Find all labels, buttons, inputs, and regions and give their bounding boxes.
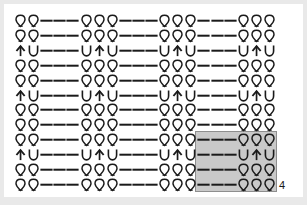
twisted-knit-stitch-icon (80, 132, 93, 147)
purl-stitch-icon (40, 73, 53, 88)
purl-stitch-icon (197, 73, 210, 88)
twisted-knit-stitch-icon (263, 58, 276, 73)
twisted-knit-stitch-icon (14, 162, 27, 177)
twisted-knit-stitch-icon (184, 102, 197, 117)
purl-stitch-icon (145, 43, 158, 58)
knit-below-stitch-icon (184, 147, 197, 162)
purl-stitch-icon (211, 117, 224, 132)
purl-stitch-icon (66, 147, 79, 162)
purl-stitch-icon (132, 177, 145, 192)
knit-below-stitch-icon (80, 43, 93, 58)
twisted-knit-stitch-icon (158, 117, 171, 132)
knit-below-stitch-icon (106, 43, 119, 58)
twisted-knit-stitch-icon (171, 73, 184, 88)
purl-stitch-icon (66, 177, 79, 192)
twisted-knit-stitch-icon (237, 73, 250, 88)
purl-stitch-icon (132, 73, 145, 88)
purl-stitch-icon (145, 73, 158, 88)
purl-stitch-icon (224, 132, 237, 147)
twisted-knit-stitch-icon (14, 132, 27, 147)
twisted-knit-stitch-icon (184, 73, 197, 88)
twisted-knit-stitch-icon (93, 13, 106, 28)
purl-stitch-icon (197, 147, 210, 162)
twisted-knit-stitch-icon (171, 117, 184, 132)
twisted-knit-stitch-icon (106, 177, 119, 192)
twisted-knit-stitch-icon (250, 58, 263, 73)
purl-stitch-icon (211, 88, 224, 103)
raised-increase-stitch-icon (171, 43, 184, 58)
purl-stitch-icon (53, 58, 66, 73)
purl-stitch-icon (211, 58, 224, 73)
twisted-knit-stitch-icon (106, 102, 119, 117)
twisted-knit-stitch-icon (27, 58, 40, 73)
purl-stitch-icon (119, 132, 132, 147)
twisted-knit-stitch-icon (93, 28, 106, 43)
twisted-knit-stitch-icon (263, 117, 276, 132)
purl-stitch-icon (53, 102, 66, 117)
knit-below-stitch-icon (184, 88, 197, 103)
purl-stitch-icon (197, 43, 210, 58)
twisted-knit-stitch-icon (27, 102, 40, 117)
knit-below-stitch-icon (237, 43, 250, 58)
purl-stitch-icon (119, 147, 132, 162)
purl-stitch-icon (145, 147, 158, 162)
purl-stitch-icon (119, 162, 132, 177)
twisted-knit-stitch-icon (27, 73, 40, 88)
twisted-knit-stitch-icon (93, 117, 106, 132)
purl-stitch-icon (145, 132, 158, 147)
purl-stitch-icon (197, 117, 210, 132)
purl-stitch-icon (66, 88, 79, 103)
purl-stitch-icon (224, 43, 237, 58)
twisted-knit-stitch-icon (184, 117, 197, 132)
knit-below-stitch-icon (263, 43, 276, 58)
twisted-knit-stitch-icon (158, 162, 171, 177)
twisted-knit-stitch-icon (263, 13, 276, 28)
twisted-knit-stitch-icon (93, 177, 106, 192)
purl-stitch-icon (211, 13, 224, 28)
raised-increase-stitch-icon (171, 88, 184, 103)
twisted-knit-stitch-icon (80, 117, 93, 132)
purl-stitch-icon (211, 162, 224, 177)
twisted-knit-stitch-icon (250, 132, 263, 147)
purl-stitch-icon (197, 177, 210, 192)
purl-stitch-icon (132, 117, 145, 132)
purl-stitch-icon (224, 28, 237, 43)
twisted-knit-stitch-icon (106, 117, 119, 132)
twisted-knit-stitch-icon (250, 117, 263, 132)
purl-stitch-icon (40, 147, 53, 162)
twisted-knit-stitch-icon (93, 73, 106, 88)
twisted-knit-stitch-icon (106, 73, 119, 88)
purl-stitch-icon (40, 58, 53, 73)
purl-stitch-icon (132, 88, 145, 103)
purl-stitch-icon (66, 132, 79, 147)
twisted-knit-stitch-icon (14, 117, 27, 132)
purl-stitch-icon (197, 162, 210, 177)
purl-stitch-icon (224, 88, 237, 103)
purl-stitch-icon (66, 73, 79, 88)
twisted-knit-stitch-icon (106, 13, 119, 28)
purl-stitch-icon (119, 117, 132, 132)
twisted-knit-stitch-icon (237, 117, 250, 132)
purl-stitch-icon (40, 102, 53, 117)
knit-below-stitch-icon (106, 147, 119, 162)
twisted-knit-stitch-icon (80, 162, 93, 177)
purl-stitch-icon (40, 88, 53, 103)
purl-stitch-icon (119, 177, 132, 192)
purl-stitch-icon (211, 132, 224, 147)
raised-increase-stitch-icon (14, 88, 27, 103)
purl-stitch-icon (145, 162, 158, 177)
twisted-knit-stitch-icon (14, 102, 27, 117)
twisted-knit-stitch-icon (237, 162, 250, 177)
chart-page: 4 6 (0, 0, 307, 205)
purl-stitch-icon (40, 177, 53, 192)
repeat-column-count-label: 6 (283, 195, 289, 197)
purl-stitch-icon (53, 162, 66, 177)
twisted-knit-stitch-icon (237, 28, 250, 43)
twisted-knit-stitch-icon (263, 28, 276, 43)
raised-increase-stitch-icon (250, 88, 263, 103)
twisted-knit-stitch-icon (106, 132, 119, 147)
twisted-knit-stitch-icon (93, 162, 106, 177)
twisted-knit-stitch-icon (27, 28, 40, 43)
twisted-knit-stitch-icon (106, 162, 119, 177)
purl-stitch-icon (211, 43, 224, 58)
